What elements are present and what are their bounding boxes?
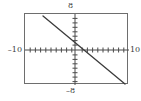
graph-figure: 8 –10 xyxy=(0,0,141,101)
window-ymax-label: 8 xyxy=(0,1,141,10)
plot-canvas xyxy=(25,14,129,85)
plot-frame xyxy=(24,13,128,84)
window-xmax-label: 10 xyxy=(130,45,141,54)
window-xmin-label: –10 xyxy=(1,45,22,54)
window-ymin-label: –8 xyxy=(0,86,141,95)
